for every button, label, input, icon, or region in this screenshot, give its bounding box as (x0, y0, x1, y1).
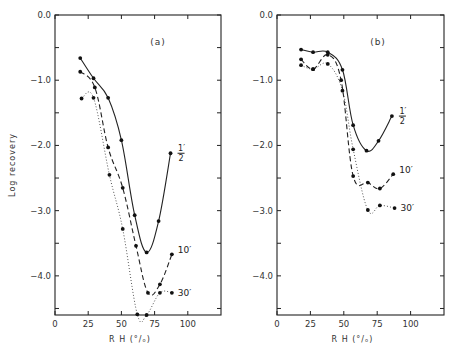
data-point (365, 149, 369, 153)
data-point (390, 114, 394, 118)
x-tick-label: 50 (116, 319, 127, 329)
series-label: 30′ (178, 288, 192, 298)
y-axis-label: Log recovery (8, 133, 17, 197)
series-label-numerator: 1′ (399, 107, 406, 116)
data-point (341, 89, 345, 93)
data-point (158, 291, 162, 295)
data-point (135, 312, 139, 316)
data-point (145, 250, 149, 254)
data-point (121, 227, 125, 231)
data-point (393, 206, 397, 210)
data-point (78, 70, 82, 74)
x-tick-label: 0 (274, 319, 279, 329)
data-point (326, 53, 330, 57)
data-point (311, 50, 315, 54)
x-tick-label: 0 (52, 319, 57, 329)
series-line-dashed (80, 72, 172, 296)
series-label: 30′ (401, 203, 415, 213)
data-point (351, 123, 355, 127)
data-point (326, 62, 330, 66)
x-axis-label: R H (°/ₒ) (332, 335, 374, 344)
y-tick-label: −3.0 (30, 206, 51, 216)
data-point (146, 291, 150, 295)
data-point (120, 138, 124, 142)
series-label: 10′ (178, 245, 192, 255)
y-tick-label: −3.0 (252, 206, 273, 216)
series-line-solid (301, 50, 392, 152)
data-point (106, 145, 110, 149)
series-label-denominator: 2 (400, 117, 405, 126)
data-point (108, 173, 112, 177)
data-point (145, 313, 149, 317)
data-point (80, 97, 84, 101)
y-tick-label: −4.0 (30, 271, 51, 281)
data-point (133, 213, 137, 217)
y-tick-label: 0.0 (259, 10, 273, 20)
series-label-numerator: 1′ (178, 144, 185, 153)
data-point (366, 208, 370, 212)
x-tick-label: 50 (338, 319, 349, 329)
panel-label: (b) (370, 37, 386, 47)
data-point (351, 147, 355, 151)
data-point (134, 244, 138, 248)
panel-b: 0.0−1.0−2.0−3.0−4.00255075100R H (°/ₒ)(b… (252, 10, 444, 344)
data-point (366, 181, 370, 185)
y-tick-label: −2.0 (252, 140, 273, 150)
series-label-denominator: 2 (178, 154, 183, 163)
data-point (341, 68, 345, 72)
series-label: 10′ (399, 165, 413, 175)
data-point (378, 187, 382, 191)
data-point (377, 139, 381, 143)
figure: Log recovery 0.0−1.0−2.0−3.0−4.002550751… (0, 0, 454, 351)
x-tick-label: 25 (305, 319, 316, 329)
x-tick-label: 75 (149, 319, 160, 329)
data-point (158, 282, 162, 286)
data-point (351, 174, 355, 178)
data-point (378, 204, 382, 208)
panel-label: (a) (150, 37, 166, 47)
y-tick-label: −1.0 (252, 75, 273, 85)
data-point (170, 252, 174, 256)
data-point (78, 56, 82, 60)
data-point (311, 67, 315, 71)
x-tick-label: 100 (180, 319, 196, 329)
plot-frame (55, 15, 221, 315)
data-point (299, 48, 303, 52)
y-tick-label: −1.0 (30, 75, 51, 85)
y-tick-label: −2.0 (30, 140, 51, 150)
panel-a: 0.0−1.0−2.0−3.0−4.00255075100R H (°/ₒ)(a… (30, 10, 221, 344)
x-axis-label: R H (°/ₒ) (109, 335, 151, 344)
data-point (92, 96, 96, 100)
series-line-dashed (301, 55, 393, 189)
data-point (299, 63, 303, 67)
x-tick-label: 100 (402, 319, 418, 329)
x-tick-label: 75 (372, 319, 383, 329)
data-point (299, 57, 303, 61)
data-point (121, 186, 125, 190)
x-tick-label: 25 (83, 319, 94, 329)
data-point (391, 172, 395, 176)
data-point (93, 85, 97, 89)
data-point (157, 219, 161, 223)
data-point (170, 291, 174, 295)
y-tick-label: 0.0 (37, 10, 51, 20)
data-point (169, 151, 173, 155)
data-point (106, 96, 110, 100)
y-tick-label: −4.0 (252, 271, 273, 281)
data-point (92, 76, 96, 80)
